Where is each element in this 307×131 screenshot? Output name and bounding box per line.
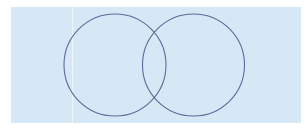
venn-diagram <box>0 0 307 131</box>
left-set-circle <box>64 14 166 116</box>
right-set-circle <box>143 14 245 116</box>
venn-diagram-canvas <box>0 0 307 131</box>
